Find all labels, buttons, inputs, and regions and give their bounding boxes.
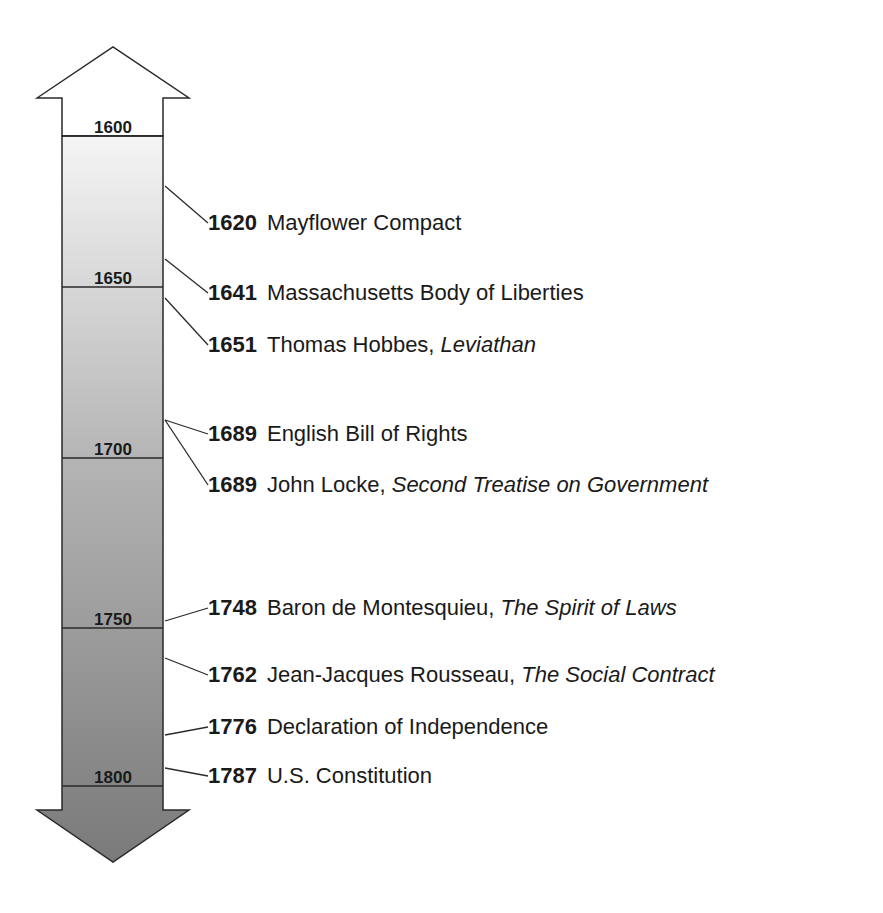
event-work-title: Second Treatise on Government (392, 472, 708, 497)
event-text: John Locke, (267, 472, 392, 497)
timeline-event: 1689English Bill of Rights (208, 423, 468, 445)
event-text: Baron de Montesquieu, (267, 595, 501, 620)
event-year: 1776 (208, 714, 257, 739)
timeline-event: 1748Baron de Montesquieu, The Spirit of … (208, 597, 677, 619)
timeline-event: 1620Mayflower Compact (208, 212, 461, 234)
event-text: Thomas Hobbes, (267, 332, 441, 357)
event-work-title: The Social Contract (521, 662, 714, 687)
event-text: Declaration of Independence (267, 714, 548, 739)
timeline-event: 1641Massachusetts Body of Liberties (208, 282, 584, 304)
event-text: U.S. Constitution (267, 763, 432, 788)
event-text: Jean-Jacques Rousseau, (267, 662, 521, 687)
timeline-event: 1689John Locke, Second Treatise on Gover… (208, 474, 708, 496)
event-year: 1689 (208, 472, 257, 497)
timeline-event: 1776Declaration of Independence (208, 716, 548, 738)
event-year: 1651 (208, 332, 257, 357)
event-year: 1641 (208, 280, 257, 305)
event-text: Massachusetts Body of Liberties (267, 280, 584, 305)
event-year: 1762 (208, 662, 257, 687)
event-text: English Bill of Rights (267, 421, 468, 446)
tick-label: 1600 (62, 118, 164, 138)
event-year: 1620 (208, 210, 257, 235)
tick-label: 1700 (62, 440, 164, 460)
timeline-event: 1787U.S. Constitution (208, 765, 432, 787)
event-year: 1787 (208, 763, 257, 788)
event-year: 1748 (208, 595, 257, 620)
arrow-shaft (37, 136, 189, 862)
event-work-title: The Spirit of Laws (501, 595, 677, 620)
event-work-title: Leviathan (441, 332, 536, 357)
tick-label: 1800 (62, 768, 164, 788)
timeline-event: 1651Thomas Hobbes, Leviathan (208, 334, 536, 356)
event-text: Mayflower Compact (267, 210, 461, 235)
tick-label: 1750 (62, 610, 164, 630)
tick-label: 1650 (62, 269, 164, 289)
timeline-event: 1762Jean-Jacques Rousseau, The Social Co… (208, 664, 715, 686)
event-year: 1689 (208, 421, 257, 446)
